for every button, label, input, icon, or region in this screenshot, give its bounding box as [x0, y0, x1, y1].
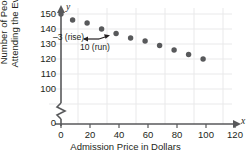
x-tick-label-60: 60	[134, 130, 162, 140]
data-point	[70, 17, 75, 22]
data-point	[200, 56, 205, 61]
x-tick-label-0: 0	[47, 130, 75, 140]
y-axis-name: y	[66, 2, 70, 12]
gridlines-vertical	[78, 8, 223, 124]
annotation-rise: –3 (rise)	[53, 33, 84, 42]
y-tick-label-100: 100	[22, 84, 56, 94]
x-axis-title: Admission Price in Dollars	[0, 141, 251, 152]
x-tick-label-80: 80	[163, 130, 191, 140]
scatter-chart: y x 150 140 130 120 110 100 0 0 20 40 60…	[0, 0, 251, 158]
annotation-run: 10 (run)	[80, 43, 110, 52]
x-tick-label-40: 40	[105, 130, 133, 140]
y-axis-title-wrapper: Number of People Attending the Event	[0, 0, 21, 82]
y-axis	[57, 5, 65, 126]
data-point	[113, 31, 118, 36]
y-tick-label-120: 120	[22, 54, 56, 64]
x-tick-label-20: 20	[76, 130, 104, 140]
y-tick-label-110: 110	[22, 69, 56, 79]
y-axis-title: Number of People Attending the Event	[0, 0, 20, 82]
data-point	[157, 43, 162, 48]
data-point	[84, 20, 89, 25]
data-point	[186, 52, 191, 57]
y-axis-title-line2: Attending the Event	[10, 0, 21, 82]
y-tick-label-150: 150	[22, 9, 56, 19]
y-tick-label-140: 140	[22, 24, 56, 34]
data-point	[58, 11, 63, 16]
x-tick-label-100: 100	[192, 130, 220, 140]
data-point	[142, 38, 147, 43]
data-point	[99, 26, 104, 31]
data-point	[171, 47, 176, 52]
x-axis-arrowhead	[233, 120, 241, 128]
data-point	[128, 35, 133, 40]
x-axis-name: x	[241, 116, 245, 126]
y-tick-label-130: 130	[22, 39, 56, 49]
y-axis-break	[57, 103, 65, 119]
x-tick-label-120: 120	[221, 130, 249, 140]
slope-indicator	[83, 34, 110, 41]
y-axis-origin-label: 0	[22, 118, 56, 128]
